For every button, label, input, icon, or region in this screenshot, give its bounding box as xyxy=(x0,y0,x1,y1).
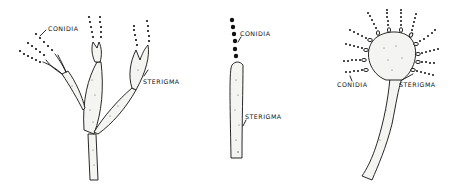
phialides-center xyxy=(92,42,101,62)
figure-vesicle-conidiophore: CONIDIA STERIGMA xyxy=(337,9,439,180)
stalk xyxy=(88,134,98,180)
stalk xyxy=(362,78,402,180)
conidia-chain xyxy=(230,18,238,58)
conidiophore-diagram: CONIDIA STERIGMA CONIDIA STERIGMA xyxy=(0,0,460,194)
label-sterigma-1: STERIGMA xyxy=(143,78,180,85)
label-sterigma-2: STERIGMA xyxy=(245,113,282,120)
leader-conidia-1 xyxy=(40,30,46,36)
conidia-chains-left-figure xyxy=(19,16,150,63)
vesicle xyxy=(368,32,415,80)
sterigma-body xyxy=(230,62,243,158)
label-sterigma-3: STERIGMA xyxy=(399,81,436,88)
label-conidia-3: CONIDIA xyxy=(337,81,368,88)
leader-conidia-2 xyxy=(238,37,241,42)
figure-branched-conidiophore: CONIDIA STERIGMA xyxy=(19,16,180,180)
label-conidia-2: CONIDIA xyxy=(240,30,271,37)
leader-sterigma-2 xyxy=(243,120,246,126)
figure-single-sterigma: CONIDIA STERIGMA xyxy=(230,18,282,158)
metula-left xyxy=(62,71,85,110)
phialides-left xyxy=(43,54,66,74)
label-conidia-1: CONIDIA xyxy=(48,25,79,32)
